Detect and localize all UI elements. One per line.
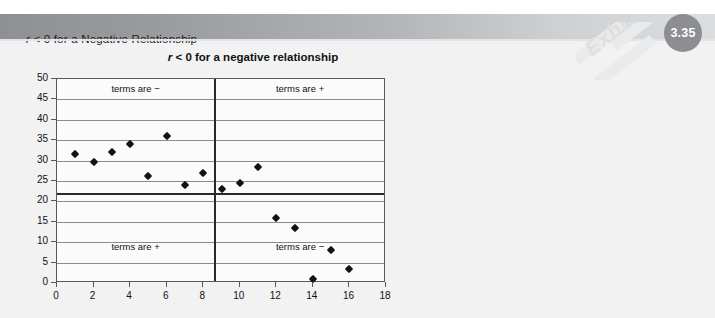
y-axis-tick-label: 0 (22, 277, 48, 287)
x-axis-tick-label: 6 (154, 290, 178, 301)
data-point (89, 158, 97, 166)
y-axis-tick-label: 35 (22, 134, 48, 144)
top-white-strip (0, 0, 715, 14)
y-axis-tick-label: 50 (22, 73, 48, 83)
y-axis-tick-label: 5 (22, 257, 48, 267)
x-axis-tick-mark (129, 282, 130, 287)
y-axis-tick-mark (51, 200, 56, 201)
y-axis-tick-label: 25 (22, 175, 48, 185)
data-point (254, 162, 262, 170)
y-axis-tick-mark (51, 139, 56, 140)
gridline-y-40 (57, 120, 384, 121)
data-point (309, 275, 317, 283)
x-axis-tick-mark (93, 282, 94, 287)
scatter-chart: r < 0 for a negative relationship terms … (0, 41, 715, 318)
data-point (199, 169, 207, 177)
y-axis-tick-mark (51, 119, 56, 120)
y-axis-tick-label: 40 (22, 114, 48, 124)
x-axis-tick-mark (202, 282, 203, 287)
y-axis-tick-mark (51, 221, 56, 222)
y-axis-tick-mark (51, 241, 56, 242)
y-axis-tick-mark (51, 180, 56, 181)
plot-area: terms are −terms are +terms are +terms a… (56, 78, 385, 282)
mean-reference-line (57, 193, 384, 195)
quadrant-label-bottom-right: terms are − (220, 241, 380, 252)
x-axis-tick-label: 16 (336, 290, 360, 301)
data-point (144, 172, 152, 180)
data-point (108, 148, 116, 156)
data-point (272, 213, 280, 221)
chart-title-text: < 0 for a negative relationship (172, 51, 338, 63)
chart-title: r < 0 for a negative relationship (108, 51, 398, 63)
gridline-y-45 (57, 99, 384, 100)
gridline-y-30 (57, 161, 384, 162)
quadrant-label-top-right: terms are + (220, 83, 380, 94)
y-axis-tick-label: 10 (22, 236, 48, 246)
x-axis-tick-label: 12 (263, 290, 287, 301)
x-axis-tick-label: 8 (190, 290, 214, 301)
quadrant-label-bottom-left: terms are + (63, 241, 208, 252)
y-axis-tick-mark (51, 262, 56, 263)
x-axis-tick-mark (239, 282, 240, 287)
quadrant-label-top-left: terms are − (63, 83, 208, 94)
data-point (162, 132, 170, 140)
exhibit-header-bar: r < 0 for a Negative Relationship (0, 14, 715, 39)
y-axis-tick-label: 15 (22, 216, 48, 226)
gridline-y-15 (57, 222, 384, 223)
x-axis-tick-mark (166, 282, 167, 287)
x-axis-tick-label: 0 (44, 290, 68, 301)
x-axis-tick-label: 10 (227, 290, 251, 301)
y-axis-tick-mark (51, 160, 56, 161)
x-axis-tick-mark (385, 282, 386, 287)
exhibit-panel: r < 0 for a Negative Relationship Exhibi… (0, 0, 715, 318)
gridline-y-5 (57, 263, 384, 264)
x-axis-tick-mark (56, 282, 57, 287)
data-point (217, 185, 225, 193)
gridline-y-35 (57, 140, 384, 141)
data-point (290, 224, 298, 232)
data-point (71, 150, 79, 158)
x-axis-tick-label: 14 (300, 290, 324, 301)
x-axis-tick-label: 2 (81, 290, 105, 301)
data-point (345, 264, 353, 272)
x-axis-tick-mark (348, 282, 349, 287)
x-axis-tick-mark (275, 282, 276, 287)
y-axis-tick-label: 30 (22, 155, 48, 165)
x-axis-tick-label: 18 (373, 290, 397, 301)
gridline-y-25 (57, 181, 384, 182)
y-axis-tick-label: 20 (22, 195, 48, 205)
y-axis-tick-label: 45 (22, 93, 48, 103)
vertical-divider-line (214, 79, 216, 281)
y-axis-tick-mark (51, 78, 56, 79)
y-axis-tick-mark (51, 98, 56, 99)
data-point (126, 140, 134, 148)
x-axis-tick-label: 4 (117, 290, 141, 301)
gridline-y-20 (57, 201, 384, 202)
x-axis-tick-mark (312, 282, 313, 287)
data-point (181, 181, 189, 189)
